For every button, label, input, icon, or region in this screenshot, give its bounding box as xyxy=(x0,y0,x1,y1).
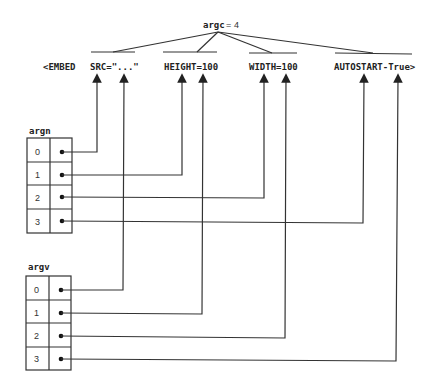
argn-pointers xyxy=(62,78,364,223)
argv-index-2: 2 xyxy=(34,331,39,341)
argn-array: argn 0 1 2 3 xyxy=(27,126,72,233)
argn-0-to-src-arrow xyxy=(62,78,97,152)
token-width: WIDTH=100 xyxy=(249,62,298,72)
token-autostart: AUTOSTART-True> xyxy=(334,62,416,72)
argn-label: argn xyxy=(29,126,51,136)
argv-pointers xyxy=(61,78,398,361)
token-embed: <EMBED xyxy=(43,62,76,72)
token-src: SRC="..." xyxy=(90,62,139,72)
argv-array: argv 0 1 2 3 xyxy=(26,262,71,370)
argv-index-1: 1 xyxy=(34,308,39,318)
argv-3-to-autostart-value-arrow xyxy=(61,78,398,361)
argv-2-to-width-value-arrow xyxy=(61,78,286,338)
argv-index-3: 3 xyxy=(34,354,39,364)
argv-index-0: 0 xyxy=(34,285,39,295)
argc-value: 4 xyxy=(234,20,239,30)
argv-0-to-src-value-arrow xyxy=(61,78,124,290)
token-height: HEIGHT=100 xyxy=(164,62,218,72)
argv-label: argv xyxy=(28,262,50,272)
argc-name: argc xyxy=(203,20,225,30)
argn-2-to-width-arrow xyxy=(62,78,264,198)
argc-tree xyxy=(91,32,412,54)
argn-1-to-height-arrow xyxy=(62,78,182,175)
argn-index-2: 2 xyxy=(35,193,40,203)
argc-equals: = xyxy=(226,20,231,30)
embed-tag: <EMBED SRC="..." HEIGHT=100 WIDTH=100 AU… xyxy=(43,62,416,72)
argn-index-0: 0 xyxy=(35,147,40,157)
argc-label: argc = 4 xyxy=(203,20,239,30)
autostart-bar xyxy=(335,53,412,54)
argn-3-to-autostart-arrow xyxy=(62,78,364,223)
embed-argument-diagram: argc = 4 <EMBED SRC="..." HEIGHT=100 WID… xyxy=(0,0,431,390)
argn-index-3: 3 xyxy=(35,217,40,227)
argn-index-1: 1 xyxy=(35,170,40,180)
